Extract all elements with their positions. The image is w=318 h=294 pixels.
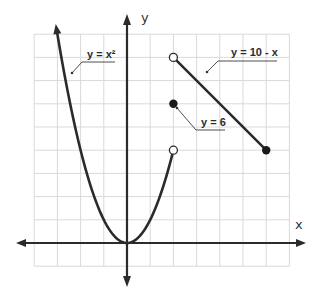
- y-axis-down-arrow-icon: [123, 276, 131, 287]
- label-parabola: y = x²: [71, 48, 116, 74]
- x-axis-label: x: [295, 217, 303, 232]
- y-axis-up-arrow-icon: [123, 14, 131, 25]
- x-axis: [16, 239, 306, 247]
- grid: [34, 34, 289, 266]
- label-line: y = 10 - x: [206, 46, 279, 73]
- x-axis-right-arrow-icon: [296, 239, 306, 247]
- open-circle-segment-start: [169, 53, 177, 61]
- open-circle-parabola-end: [169, 146, 177, 154]
- y-axis-label: y: [141, 10, 149, 25]
- filled-point-y6: [169, 100, 177, 108]
- parabola-arrow-icon: [53, 24, 61, 35]
- point-label: y = 6: [201, 116, 226, 128]
- parabola-curve: [57, 30, 174, 243]
- filled-circle-segment-end: [262, 146, 270, 154]
- parabola-label: y = x²: [87, 48, 116, 60]
- line-label: y = 10 - x: [231, 46, 279, 58]
- piecewise-function-graph: x y y = x² y = 6 y = 10 - x: [0, 0, 318, 294]
- x-axis-left-arrow-icon: [16, 239, 26, 247]
